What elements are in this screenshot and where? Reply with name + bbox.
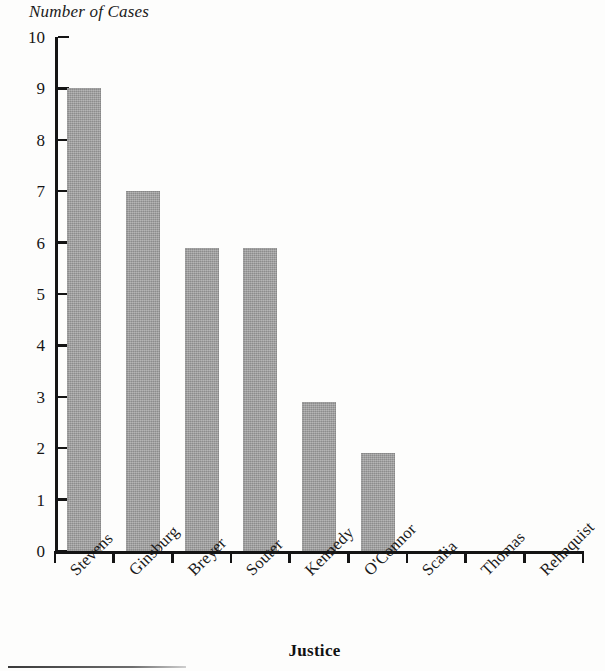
y-axis-tick-label: 1: [37, 491, 46, 508]
y-axis-title: Number of Cases: [29, 2, 149, 22]
bar: [302, 402, 336, 551]
x-axis-category-labels: StevensGinsburgBreyerSouterKennedyO'Conn…: [55, 566, 583, 646]
x-axis-tick-mark: [171, 551, 173, 563]
x-axis-tick-mark: [523, 551, 525, 563]
bar: [67, 88, 101, 551]
page-rule-artifact: [8, 666, 186, 668]
y-axis-tick-label: 9: [37, 80, 46, 97]
y-axis-tick-label: 4: [37, 337, 46, 354]
y-axis-tick-label: 7: [37, 183, 46, 200]
bar: [185, 248, 219, 551]
x-axis-tick-mark: [288, 551, 290, 563]
x-axis-title: Justice: [0, 641, 605, 661]
bar: [126, 191, 160, 551]
plot-area: 012345678910: [55, 37, 583, 551]
x-axis-tick-mark: [112, 551, 114, 563]
x-axis-tick-mark: [406, 551, 408, 563]
x-axis-tick-mark: [582, 551, 584, 563]
y-axis-tick-label: 3: [37, 388, 46, 405]
y-axis-tick-label: 2: [37, 440, 46, 457]
y-axis-tick-label: 0: [37, 543, 46, 560]
y-axis-tick-label: 8: [37, 131, 46, 148]
y-axis-tick-mark: [58, 36, 69, 38]
x-axis-tick-mark: [464, 551, 466, 563]
y-axis-tick-label: 10: [28, 29, 45, 46]
x-axis-tick-mark: [230, 551, 232, 563]
x-axis-tick-mark: [347, 551, 349, 563]
y-axis-tick-label: 6: [37, 234, 46, 251]
y-axis-tick-label: 5: [37, 286, 46, 303]
bar: [243, 248, 277, 551]
x-axis-tick-mark: [54, 551, 56, 563]
bar-chart-figure: Number of Cases 012345678910 StevensGins…: [0, 0, 605, 671]
x-axis-title-text: Justice: [264, 641, 340, 660]
